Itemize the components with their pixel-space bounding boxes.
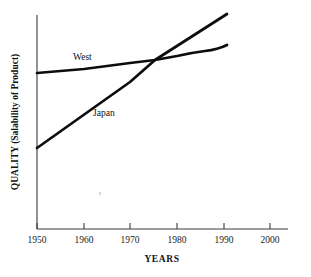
chart-canvas: 1950 1960 1970 1980 1990 2000 YEARS QUAL…: [0, 0, 311, 277]
x-axis-title: YEARS: [144, 254, 179, 264]
x-tick-label-2000: 2000: [261, 235, 280, 245]
series-line-japan: [37, 14, 227, 148]
y-axis-title: QUALITY (Salability of Product): [10, 54, 21, 190]
x-tick-label-1990: 1990: [215, 235, 234, 245]
x-tick-label-1950: 1950: [28, 235, 47, 245]
series-label-japan: Japan: [93, 108, 115, 118]
series-label-west: West: [73, 52, 92, 62]
series-line-west: [37, 45, 227, 73]
x-tick-label-1980: 1980: [168, 235, 187, 245]
scan-artifact-speck: [99, 192, 101, 195]
x-tick-label-1960: 1960: [75, 235, 94, 245]
quality-vs-years-chart: 1950 1960 1970 1980 1990 2000 YEARS QUAL…: [0, 0, 311, 277]
x-tick-label-1970: 1970: [121, 235, 140, 245]
